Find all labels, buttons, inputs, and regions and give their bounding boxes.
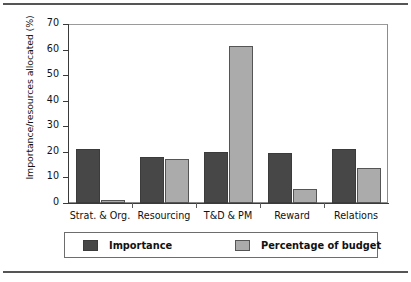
x-tick-mark	[324, 203, 325, 208]
x-tick-label: Reward	[260, 210, 324, 221]
x-tick-label: Strat. & Org.	[68, 210, 132, 221]
y-tick-mark	[63, 203, 68, 204]
legend-label-importance: Importance	[109, 240, 172, 251]
bar-group	[268, 24, 317, 203]
y-tick-label: 70	[47, 17, 59, 28]
x-tick-mark	[260, 203, 261, 208]
top-rule	[3, 3, 408, 5]
x-tick-label: Resourcing	[132, 210, 196, 221]
bar	[332, 149, 356, 203]
bar	[165, 159, 189, 203]
y-tick-label: 0	[53, 196, 59, 207]
legend-item-importance: Importance	[83, 233, 172, 257]
bar-group	[204, 24, 253, 203]
bar	[76, 149, 100, 203]
legend-item-percentage-of-budget: Percentage of budget	[235, 233, 381, 257]
bar	[268, 153, 292, 203]
legend-label-percentage-of-budget: Percentage of budget	[261, 240, 381, 251]
bar-group	[76, 24, 125, 203]
bar	[293, 189, 317, 203]
y-tick-label: 10	[47, 170, 59, 181]
y-tick: 30	[0, 126, 68, 127]
bar	[357, 168, 381, 203]
y-tick: 20	[0, 152, 68, 153]
bottom-rule	[3, 271, 408, 273]
plot-area: Importance/resources allocated (%) 01020…	[0, 18, 411, 220]
legend-swatch-percentage-of-budget	[235, 240, 250, 251]
y-tick: 10	[0, 177, 68, 178]
y-tick-label: 40	[47, 94, 59, 105]
y-tick: 0	[0, 203, 68, 204]
bar-series-container	[68, 24, 388, 203]
y-tick: 50	[0, 75, 68, 76]
y-tick-label: 60	[47, 43, 59, 54]
y-tick-label: 50	[47, 68, 59, 79]
legend-swatch-importance	[83, 240, 98, 251]
x-tick-mark	[196, 203, 197, 208]
x-axis-line	[68, 203, 389, 204]
bar	[229, 46, 253, 203]
bar	[204, 152, 228, 203]
x-tick-label: T&D & PM	[196, 210, 260, 221]
y-tick: 70	[0, 24, 68, 25]
y-axis-label: Importance/resources allocated (%)	[24, 3, 35, 193]
bar	[140, 157, 164, 203]
bar-group	[332, 24, 381, 203]
y-tick-label: 30	[47, 119, 59, 130]
y-tick: 40	[0, 101, 68, 102]
y-tick: 60	[0, 50, 68, 51]
x-tick-label: Relations	[324, 210, 388, 221]
chart-legend: Importance Percentage of budget	[64, 232, 378, 258]
x-tick-mark	[132, 203, 133, 208]
y-tick-label: 20	[47, 145, 59, 156]
bar-group	[140, 24, 189, 203]
figure: Importance/resources allocated (%) 01020…	[0, 0, 411, 282]
bar	[101, 200, 125, 203]
